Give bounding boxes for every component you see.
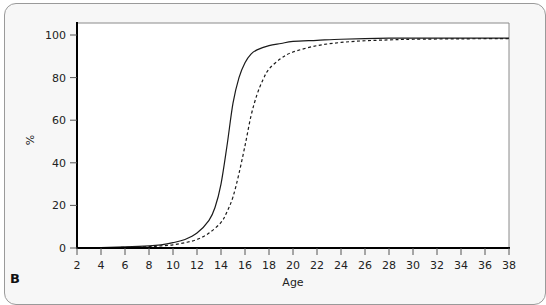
plot-area <box>77 23 509 248</box>
x-axis-label: Age <box>282 276 304 289</box>
y-tick-label: 0 <box>59 242 66 255</box>
x-tick-label: 18 <box>262 259 276 272</box>
x-tick-label: 36 <box>478 259 492 272</box>
x-tick-label: 14 <box>214 259 228 272</box>
panel-label: B <box>10 271 20 286</box>
x-tick-label: 34 <box>454 259 468 272</box>
x-tick-label: 10 <box>166 259 180 272</box>
x-tick-label: 28 <box>382 259 396 272</box>
y-axis-ticks: 020406080100 <box>45 29 77 255</box>
x-tick-label: 20 <box>286 259 300 272</box>
x-tick-label: 26 <box>358 259 372 272</box>
x-tick-label: 2 <box>74 259 81 272</box>
x-tick-label: 24 <box>334 259 348 272</box>
y-axis-label: % <box>24 135 37 145</box>
x-tick-label: 4 <box>98 259 105 272</box>
x-tick-label: 12 <box>190 259 204 272</box>
x-tick-label: 38 <box>502 259 516 272</box>
y-tick-label: 40 <box>52 157 66 170</box>
x-tick-label: 6 <box>122 259 129 272</box>
y-tick-label: 60 <box>52 114 66 127</box>
x-tick-label: 8 <box>146 259 153 272</box>
y-tick-label: 100 <box>45 29 66 42</box>
y-tick-label: 80 <box>52 72 66 85</box>
x-tick-label: 30 <box>406 259 420 272</box>
x-tick-label: 22 <box>310 259 324 272</box>
x-axis-ticks: 2468101214161820222426283032343638 <box>74 248 517 272</box>
x-tick-label: 32 <box>430 259 444 272</box>
x-tick-label: 16 <box>238 259 252 272</box>
y-tick-label: 20 <box>52 199 66 212</box>
